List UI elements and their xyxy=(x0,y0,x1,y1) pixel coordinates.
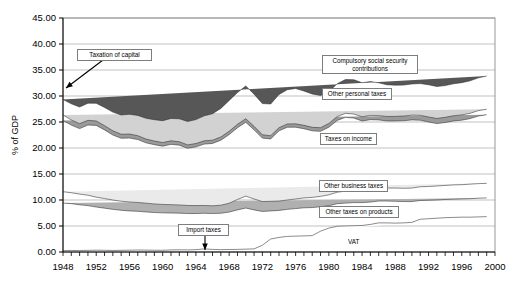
svg-text:1964: 1964 xyxy=(185,261,206,272)
y-axis: 0.005.0010.0015.0020.0025.0030.0035.0040… xyxy=(10,12,63,257)
svg-text:25.00: 25.00 xyxy=(32,116,56,127)
annotation-import-taxes: Import taxes xyxy=(178,224,229,236)
series-label-taxes-on-income: Taxes on income xyxy=(320,133,377,145)
series-label-vat: VAT xyxy=(348,238,368,245)
annotation-taxation-of-capital: Taxation of capital xyxy=(77,49,152,61)
series-label-other-personal-taxes: Other personal taxes xyxy=(322,88,392,100)
series-label-other-taxes-on-products: Other taxes on products xyxy=(319,206,399,218)
svg-text:1968: 1968 xyxy=(219,261,240,272)
svg-text:1972: 1972 xyxy=(252,261,273,272)
svg-text:1960: 1960 xyxy=(152,261,173,272)
svg-text:0.00: 0.00 xyxy=(38,246,57,257)
svg-text:15.00: 15.00 xyxy=(32,168,56,179)
chart-container: 0.005.0010.0015.0020.0025.0030.0035.0040… xyxy=(0,0,506,287)
svg-text:45.00: 45.00 xyxy=(32,12,56,23)
svg-text:35.00: 35.00 xyxy=(32,64,56,75)
svg-text:2000: 2000 xyxy=(484,261,505,272)
x-axis: 1948195219561960196419681972197619801984… xyxy=(52,252,505,272)
stacked-area-chart: 0.005.0010.0015.0020.0025.0030.0035.0040… xyxy=(0,0,506,287)
svg-text:1980: 1980 xyxy=(318,261,339,272)
series-label-compulsory-social-security: Compulsory social security contributions xyxy=(322,55,418,74)
svg-text:1948: 1948 xyxy=(52,261,73,272)
svg-text:10.00: 10.00 xyxy=(32,194,56,205)
svg-text:1996: 1996 xyxy=(451,261,472,272)
svg-text:1956: 1956 xyxy=(119,261,140,272)
svg-text:% of GDP: % of GDP xyxy=(10,115,20,155)
svg-text:5.00: 5.00 xyxy=(38,220,57,231)
svg-text:30.00: 30.00 xyxy=(32,90,56,101)
svg-text:1988: 1988 xyxy=(385,261,406,272)
svg-text:20.00: 20.00 xyxy=(32,142,56,153)
svg-text:40.00: 40.00 xyxy=(32,38,56,49)
series-label-other-business-taxes: Other business taxes xyxy=(319,180,388,192)
svg-text:1952: 1952 xyxy=(86,261,107,272)
svg-text:1984: 1984 xyxy=(352,261,373,272)
svg-text:1976: 1976 xyxy=(285,261,306,272)
svg-text:1992: 1992 xyxy=(418,261,439,272)
